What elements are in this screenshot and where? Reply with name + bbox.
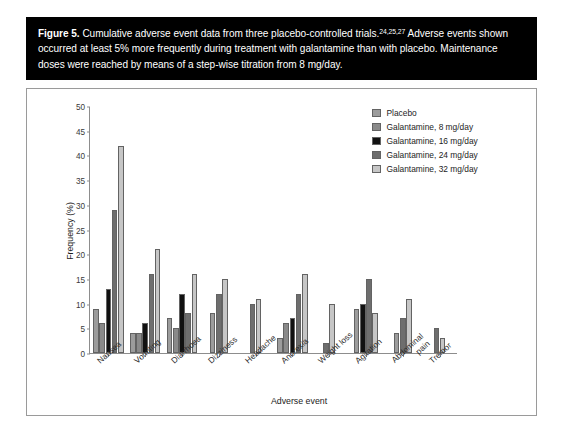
bar (210, 313, 216, 353)
bar-group: Vomiting (127, 107, 164, 353)
bar-group: Agitation (348, 107, 385, 353)
figure-number: Figure 5. (38, 28, 80, 39)
caption-reference-superscript: 24,25,27 (379, 28, 405, 35)
plot-axes: 05101520253035404550NauseaVomitingDiarrh… (89, 107, 457, 354)
bar (130, 333, 136, 353)
bar (250, 304, 256, 353)
y-axis-label: Frequency (%) (65, 202, 75, 260)
caption-line1a: Cumulative adverse event data from three… (80, 28, 380, 39)
chart-frame: PlaceboGalantamine, 8 mg/dayGalantamine,… (26, 88, 537, 416)
figure-caption-banner: Figure 5. Cumulative adverse event data … (26, 17, 537, 80)
figure-page: Figure 5. Cumulative adverse event data … (0, 0, 563, 437)
plot-area: 05101520253035404550NauseaVomitingDiarrh… (89, 107, 457, 354)
bar (354, 309, 360, 353)
bar (167, 318, 173, 353)
bar-group: Dizziness (200, 107, 237, 353)
bar-group: Tremor (421, 107, 458, 353)
x-axis-label: Adverse event (115, 396, 483, 406)
bar-group: Diarrhoea (164, 107, 201, 353)
bar-group: Headache (237, 107, 274, 353)
bar-group: Abdominalpain (384, 107, 421, 353)
y-axis-tick-mark (87, 354, 91, 355)
bar (93, 309, 99, 353)
bar-group: Nausea (90, 107, 127, 353)
figure-caption-text: Figure 5. Cumulative adverse event data … (38, 24, 525, 72)
bar (277, 338, 283, 353)
bar (112, 210, 118, 353)
bar-group: Anorexia (274, 107, 311, 353)
bar (118, 146, 124, 353)
bar-group: Weight loss (311, 107, 348, 353)
